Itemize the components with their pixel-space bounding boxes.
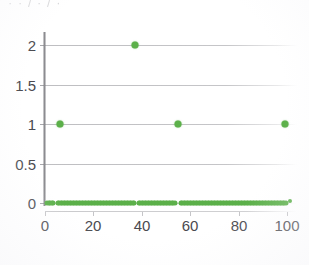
gridline-y-2 (45, 45, 297, 46)
plot-area: 00.511.52020406080100 (0, 0, 309, 265)
data-point-y0 (172, 201, 177, 206)
gridline-y-1 (45, 124, 297, 125)
y-tick-mark-0 (40, 203, 44, 204)
gridline-y-0-5 (45, 164, 297, 165)
x-tick-mark-20 (93, 212, 94, 216)
y-tick-mark-1 (40, 124, 44, 125)
data-point-y2 (131, 42, 138, 49)
x-axis-label-60: 60 (182, 217, 199, 234)
x-tick-mark-80 (239, 212, 240, 216)
y-axis-label-0: 0 (28, 195, 36, 212)
x-tick-mark-0 (45, 212, 46, 216)
y-axis-label-2: 2 (28, 37, 36, 54)
x-axis-label-80: 80 (231, 217, 248, 234)
y-tick-mark-0-5 (40, 164, 44, 165)
x-axis-label-20: 20 (85, 217, 102, 234)
y-axis-label-1-5: 1.5 (15, 77, 36, 94)
scatter-chart-figure: · · / · / · 00.511.52020406080100 (0, 0, 309, 265)
y-tick-mark-2 (40, 45, 44, 46)
x-axis-label-40: 40 (134, 217, 151, 234)
x-axis-label-100: 100 (274, 217, 299, 234)
data-point-y1 (56, 121, 63, 128)
y-tick-mark-1-5 (40, 85, 44, 86)
y-axis-label-0-5: 0.5 (15, 156, 36, 173)
data-point-y1 (281, 121, 288, 128)
gridline-y-1-5 (45, 85, 297, 86)
data-point-y1 (175, 121, 182, 128)
x-axis-label-0: 0 (41, 217, 49, 234)
x-tick-mark-60 (190, 212, 191, 216)
y-axis-spine (43, 32, 46, 206)
y-axis-label-1: 1 (28, 116, 36, 133)
x-axis-spine (45, 211, 297, 212)
data-point-trailing (288, 199, 292, 203)
x-tick-mark-100 (287, 212, 288, 216)
x-tick-mark-40 (142, 212, 143, 216)
